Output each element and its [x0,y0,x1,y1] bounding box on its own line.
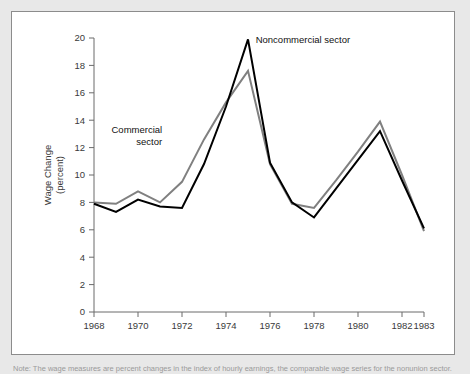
y-tick-label: 6 [80,224,85,235]
y-tick-label: 8 [80,197,85,208]
x-tick-label: 1976 [259,320,280,331]
y-tick-label: 18 [74,60,85,71]
y-tick-label: 4 [80,252,85,263]
figure-note-text: Note: The wage measures are percent chan… [13,364,463,374]
y-tick-label: 12 [74,142,85,153]
series-line [94,71,424,231]
x-tick-label: 1983 [413,320,434,331]
figure-note: Note: The wage measures are percent chan… [13,364,463,374]
y-tick-label: 0 [80,306,85,317]
axis-titles: Wage Change (percent) [42,145,65,205]
y-axis-ticks: 02468101214161820 [74,32,94,317]
y-tick-label: 16 [74,87,85,98]
y-axis-title-line1: Wage Change [42,145,53,205]
y-tick-label: 2 [80,279,85,290]
x-tick-label: 1980 [347,320,368,331]
x-tick-label: 1978 [303,320,324,331]
y-tick-label: 20 [74,32,85,43]
figure-panel: 02468101214161820 1968197019721974197619… [11,11,455,355]
x-axis-ticks: 196819701972197419761978198019821983 [83,312,434,331]
y-tick-label: 14 [74,115,85,126]
x-tick-label: 1974 [215,320,236,331]
y-tick-label: 10 [74,169,85,180]
wage-change-line-chart: 02468101214161820 1968197019721974197619… [12,12,454,354]
x-tick-label: 1972 [171,320,192,331]
x-tick-label: 1970 [127,320,148,331]
y-axis-title-line2: (percent) [54,156,65,194]
x-tick-label: 1982 [391,320,412,331]
x-tick-label: 1968 [83,320,104,331]
series-label-commercial-line1: Commercial [112,124,163,135]
series-label-noncommercial: Noncommercial sector [256,34,351,45]
series-label-commercial-line2: sector [136,136,162,147]
